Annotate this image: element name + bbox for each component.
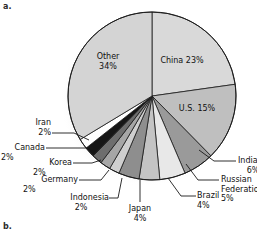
slice-label-us: U.S. 15% [169, 104, 225, 114]
slice-label-canada: Canada 2% [1, 143, 45, 162]
slice-label-germany: Germany 2% [23, 175, 78, 194]
slice-label-canada-line1: Canada [1, 143, 45, 153]
figure-container: a. b. [0, 0, 257, 236]
slice-label-other-line1: Other [80, 52, 136, 62]
slice-label-iran-line1: Iran [20, 118, 51, 128]
slice-label-brazil: Brazil 4% [197, 191, 237, 210]
slice-label-other-line2: 34% [80, 62, 136, 72]
slice-label-other: Other 34% [80, 52, 136, 71]
slice-label-india-line2: 6% [238, 166, 257, 176]
slice-label-iran-line2: 2% [20, 128, 51, 138]
slice-label-russian-federation-line1: Russian [221, 175, 257, 185]
slice-label-china-line1: China 23% [151, 56, 213, 66]
slice-label-korea-line2: 2% [33, 168, 72, 178]
slice-label-canada-line2: 2% [1, 153, 45, 163]
slice-label-japan: Japan 4% [122, 204, 158, 223]
slice-label-india-line1: India [238, 156, 257, 166]
slice-label-indonesia-line1: Indonesia [53, 193, 109, 203]
slice-label-brazil-line2: 4% [197, 201, 237, 211]
slice-label-brazil-line1: Brazil [197, 191, 237, 201]
slice-label-indonesia-line2: 2% [53, 203, 109, 213]
pie-slice-china[interactable] [152, 12, 235, 96]
slice-label-indonesia: Indonesia 2% [53, 193, 109, 212]
slice-label-china: China 23% [151, 56, 213, 66]
slice-label-iran: Iran 2% [20, 118, 51, 137]
pie-wedge-group [68, 12, 236, 180]
slice-label-us-line1: U.S. 15% [169, 104, 225, 114]
slice-label-japan-line1: Japan [122, 204, 158, 214]
slice-label-japan-line2: 4% [122, 214, 158, 224]
slice-label-germany-line2: 2% [23, 185, 78, 195]
slice-label-india: India 6% [238, 156, 257, 175]
